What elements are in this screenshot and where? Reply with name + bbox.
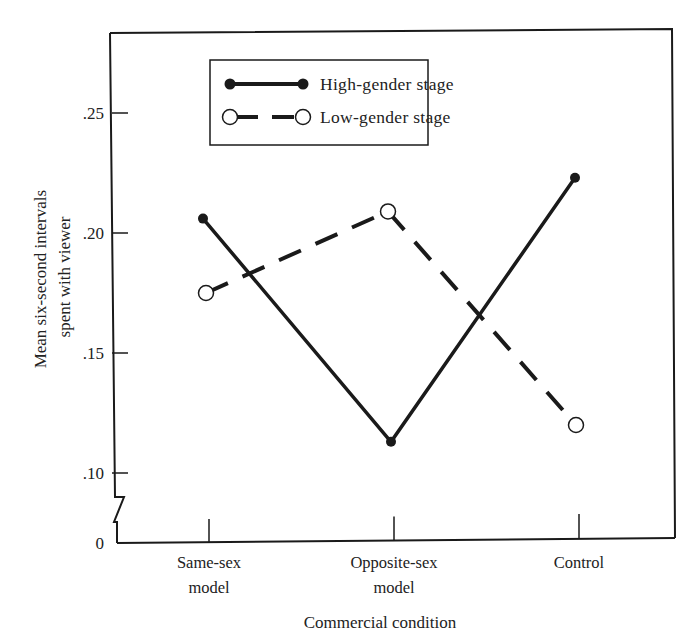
x-axis-title: Commercial condition [304,613,457,632]
line-chart: 0.10.15.20.25 Same-sexmodelOpposite-sexm… [0,0,695,633]
series-low-gender-stage [199,204,584,433]
open-circle-marker-icon [381,204,396,219]
x-category-label: Opposite-sex [350,553,438,572]
y-tick-label: .10 [83,464,104,483]
legend-label-low: Low-gender stage [320,107,451,127]
x-axis-line [117,538,675,543]
x-category-label: Control [554,553,605,572]
open-circle-marker-icon [569,418,584,433]
y-tick-label: .15 [83,344,104,363]
filled-circle-marker-icon [225,79,236,90]
filled-circle-marker-icon [198,214,208,224]
series-line [206,211,576,425]
filled-circle-marker-icon [298,79,309,90]
x-category-label: model [188,578,230,597]
filled-circle-marker-icon [386,437,396,447]
x-axis-category-labels: Same-sexmodelOpposite-sexmodelControl [177,553,605,597]
open-circle-marker-icon [296,110,311,125]
y-tick-label: .25 [83,104,104,123]
y-axis-line [110,33,124,543]
open-circle-marker-icon [199,286,214,301]
x-category-label: model [373,578,415,597]
filled-circle-marker-icon [570,173,580,183]
legend: High-gender stage Low-gender stage [210,60,454,145]
y-axis-title: Mean six-second intervals spent with vie… [31,186,74,369]
x-category-label: Same-sex [177,553,242,572]
legend-box [210,60,428,145]
y-tick-label: 0 [96,534,105,553]
y-axis-tick-labels: 0.10.15.20.25 [83,104,104,553]
open-circle-marker-icon [223,110,238,125]
y-tick-label: .20 [83,224,104,243]
data-series [198,173,584,447]
legend-label-high: High-gender stage [320,74,454,94]
